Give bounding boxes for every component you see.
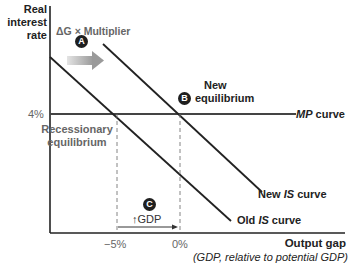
old-is-curve-label: Old IS curve	[237, 214, 301, 227]
new-is-post: curve	[294, 188, 326, 200]
y-tick-4: 4%	[28, 108, 44, 121]
recessionary-line2: equilibrium	[41, 136, 113, 149]
new-is-curve-label: New IS curve	[258, 188, 327, 201]
new-equilibrium-line2: equilibrium	[195, 92, 254, 105]
badge-c: C	[143, 198, 156, 211]
shift-arrow-icon	[67, 51, 104, 70]
new-is-pre: New	[258, 188, 284, 200]
recessionary-line1: Recessionary	[41, 123, 113, 136]
x-tick-minus5: −5%	[104, 238, 126, 251]
y-axis-title-line1: Real	[3, 3, 47, 16]
mp-curve-label: MP curve	[296, 108, 345, 121]
old-is-pre: Old	[237, 214, 258, 226]
mp-curve-label-italic: MP	[296, 108, 313, 120]
recessionary-equilibrium-label: Recessionary equilibrium	[41, 123, 113, 149]
new-is-italic: IS	[284, 188, 294, 200]
badge-a: A	[75, 35, 88, 48]
new-equilibrium-line1: New	[204, 79, 227, 92]
old-is-italic: IS	[258, 214, 268, 226]
y-axis-title-line3: rate	[3, 29, 47, 42]
shift-label: ΔG × Multiplier	[56, 25, 130, 38]
old-is-post: curve	[269, 214, 301, 226]
y-axis-title-line2: interest	[3, 16, 47, 29]
gdp-increase-label: ↑GDP	[132, 213, 161, 226]
x-axis-title: Output gap	[285, 237, 346, 250]
mp-curve-label-rest: curve	[313, 108, 345, 120]
badge-b: B	[178, 92, 191, 105]
new-is-curve	[103, 44, 262, 192]
x-tick-0: 0%	[172, 238, 188, 251]
y-axis-title: Real interest rate	[3, 3, 47, 42]
x-axis-subtitle: (GDP, relative to potential GDP)	[193, 251, 348, 264]
